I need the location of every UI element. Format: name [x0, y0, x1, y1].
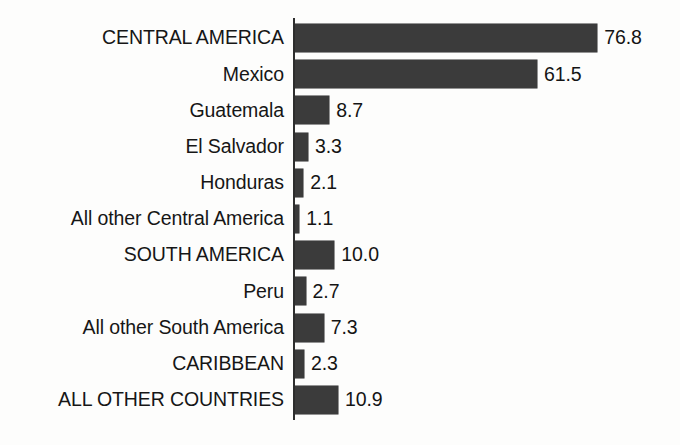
bar-group: 10.0: [295, 237, 379, 273]
bar: [295, 24, 597, 52]
category-label: Guatemala: [190, 92, 285, 128]
category-label-row: CARIBBEAN: [0, 346, 290, 382]
category-label-column: CENTRAL AMERICAMexicoGuatemalaEl Salvado…: [0, 20, 290, 418]
category-label-row: Guatemala: [0, 92, 290, 128]
bar: [295, 169, 303, 197]
bar-value-label: 76.8: [604, 28, 642, 48]
bar-row: 2.1: [295, 165, 680, 201]
bar: [295, 205, 299, 233]
category-label: El Salvador: [185, 129, 284, 165]
bar-row: 76.8: [295, 20, 680, 56]
bar-value-label: 7.3: [331, 318, 358, 338]
bar-group: 7.3: [295, 310, 358, 346]
bar-chart: CENTRAL AMERICAMexicoGuatemalaEl Salvado…: [0, 0, 680, 445]
bar-row: 3.3: [295, 129, 680, 165]
bar-group: 3.3: [295, 129, 342, 165]
category-label-row: SOUTH AMERICA: [0, 237, 290, 273]
category-label-row: El Salvador: [0, 129, 290, 165]
bar-value-label: 2.1: [310, 173, 337, 193]
bar-group: 8.7: [295, 92, 363, 128]
category-label: All other Central America: [71, 201, 284, 237]
bar-value-label: 1.1: [306, 209, 333, 229]
bar-value-label: 2.7: [313, 282, 340, 302]
bar-group: 1.1: [295, 201, 333, 237]
bar-group: 10.9: [295, 382, 382, 418]
category-label-row: Honduras: [0, 165, 290, 201]
category-label-row: ALL OTHER COUNTRIES: [0, 382, 290, 418]
bar-row: 1.1: [295, 201, 680, 237]
category-label-row: Mexico: [0, 56, 290, 92]
bar-value-label: 61.5: [544, 65, 582, 85]
bar-row: 61.5: [295, 56, 680, 92]
bar: [295, 314, 324, 342]
bar-row: 10.9: [295, 382, 680, 418]
bar-value-label: 3.3: [315, 137, 342, 157]
category-label-row: All other Central America: [0, 201, 290, 237]
category-label: Honduras: [200, 165, 284, 201]
category-label-row: All other South America: [0, 310, 290, 346]
category-label-row: Peru: [0, 273, 290, 309]
bar-group: 2.7: [295, 273, 339, 309]
category-label-row: CENTRAL AMERICA: [0, 20, 290, 56]
category-label: ALL OTHER COUNTRIES: [58, 382, 284, 418]
bar-value-label: 10.0: [341, 245, 379, 265]
bar: [295, 277, 306, 305]
category-label: CARIBBEAN: [172, 346, 284, 382]
bar-row: 2.7: [295, 273, 680, 309]
bar-row: 10.0: [295, 237, 680, 273]
bar-group: 76.8: [295, 20, 642, 56]
category-label: CENTRAL AMERICA: [102, 20, 284, 56]
category-label: SOUTH AMERICA: [124, 237, 284, 273]
bar: [295, 96, 329, 124]
bar-group: 2.1: [295, 165, 337, 201]
category-label: Peru: [243, 273, 284, 309]
bar-value-label: 10.9: [345, 390, 383, 410]
bar: [295, 241, 334, 269]
bar: [295, 350, 304, 378]
bar-row: 7.3: [295, 310, 680, 346]
bar-row: 8.7: [295, 92, 680, 128]
bar-group: 61.5: [295, 56, 582, 92]
bar-value-label: 2.3: [311, 354, 338, 374]
bar: [295, 133, 308, 161]
bar-group: 2.3: [295, 346, 338, 382]
category-label: All other South America: [83, 310, 284, 346]
bar-value-label: 8.7: [336, 101, 363, 121]
bars-column: 76.861.58.73.32.11.110.02.77.32.310.9: [295, 20, 680, 418]
category-label: Mexico: [223, 56, 284, 92]
bar-row: 2.3: [295, 346, 680, 382]
bar: [295, 386, 338, 414]
bar: [295, 60, 537, 88]
